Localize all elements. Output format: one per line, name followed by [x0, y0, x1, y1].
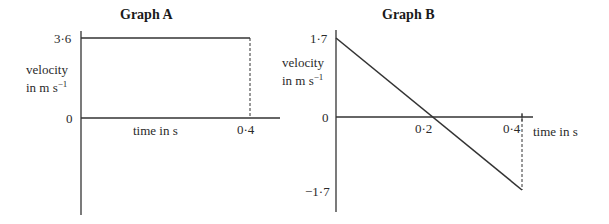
graph-b-velocity-line	[336, 38, 522, 190]
graph-a-x-axis-label: time in s	[133, 123, 178, 138]
graph-b-x-tick-end-label: 0·4	[503, 121, 520, 136]
graph-b-y-zero-label: 0	[322, 110, 329, 125]
graph-a-ylabel-unit: in m s	[26, 80, 58, 95]
graph-a-ylabel-sup: −1	[58, 79, 68, 89]
graph-a-x-tick-label: 0·4	[237, 122, 254, 137]
graph-a-ylabel-line1: velocity	[26, 63, 68, 77]
graph-b-ylabel-unit: in m s	[282, 73, 314, 88]
graph-b-title: Graph B	[382, 7, 435, 23]
graph-b-y-top-label: 1·7	[310, 31, 327, 46]
graph-b-x-axis-label: time in s	[533, 124, 578, 139]
graph-b-x-tick-mid-label: 0·2	[415, 121, 432, 136]
graph-b-y-bottom-label: −1·7	[305, 184, 330, 199]
graph-b-ylabel-sup: −1	[314, 72, 324, 82]
graph-a-title: Graph A	[120, 7, 173, 23]
graph-a-y-zero-label: 0	[66, 111, 73, 126]
graph-b-ylabel-line2: in m s−1	[282, 70, 324, 88]
graph-b-y-axis-label: velocity in m s−1	[282, 56, 324, 88]
graph-b-ylabel-line1: velocity	[282, 56, 324, 70]
graph-a-ylabel-line2: in m s−1	[26, 77, 68, 95]
graph-a-y-top-label: 3·6	[54, 31, 71, 46]
graph-a-y-axis-label: velocity in m s−1	[26, 63, 68, 95]
